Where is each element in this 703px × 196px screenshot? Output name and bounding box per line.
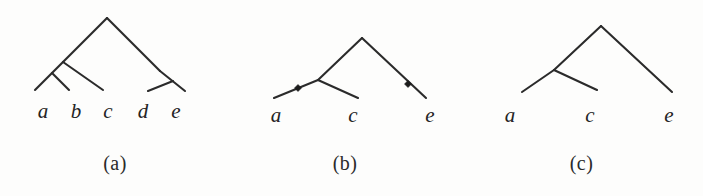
leaf-label-c-c: c — [585, 103, 595, 127]
tree-diagram-c: ace — [460, 0, 703, 150]
tree-panel-a: abcde (a) — [0, 0, 230, 196]
leaf-label-b-a: a — [271, 103, 282, 127]
tree-branch-root-left — [63, 18, 107, 62]
leaf-label-a-d: d — [138, 99, 149, 123]
leaf-label-a-b: b — [71, 99, 82, 123]
tree-diagram-b: ace — [230, 0, 460, 150]
tree-branch-root-left — [318, 38, 362, 80]
mutation-marker-e — [405, 81, 412, 88]
tree-branch-root-right — [601, 26, 672, 92]
tree-panel-b: ace (b) — [230, 0, 460, 196]
tree-branch-c-branch — [554, 70, 597, 90]
tree-branch-root-right — [107, 18, 160, 71]
mutation-marker-a — [295, 85, 302, 92]
tree-branches-c — [522, 26, 672, 92]
panel-caption-c: (c) — [460, 152, 703, 175]
tree-branch-c-branch — [318, 80, 358, 98]
figure-root: abcde (a) ace (b) ace (c) — [0, 0, 703, 196]
leaf-label-c-a: a — [505, 103, 516, 127]
tree-diagram-a: abcde — [0, 0, 230, 150]
leaf-label-b-e: e — [425, 103, 434, 127]
tree-branch-b-branch — [52, 73, 69, 90]
leaf-label-a-c: c — [103, 99, 113, 123]
tree-leaf-labels-c: ace — [505, 103, 674, 127]
tree-leaf-labels-a: abcde — [38, 99, 181, 123]
leaf-label-a-e: e — [171, 99, 180, 123]
tree-branch-c-branch — [63, 62, 103, 90]
panel-caption-b: (b) — [230, 152, 460, 175]
tree-branch-root-left — [554, 26, 601, 70]
tree-panel-c: ace (c) — [460, 0, 703, 196]
leaf-label-a-a: a — [38, 99, 49, 123]
leaf-label-c-e: e — [664, 103, 673, 127]
tree-branches-a — [35, 18, 185, 91]
tree-branch-d-branch — [148, 81, 173, 91]
leaf-label-b-c: c — [348, 103, 358, 127]
tree-branch-a-branch — [522, 70, 554, 92]
tree-branch-ab-stem — [35, 62, 63, 90]
tree-branch-root-right — [362, 38, 426, 98]
tree-leaf-labels-b: ace — [271, 103, 435, 127]
panel-caption-a: (a) — [0, 152, 230, 175]
